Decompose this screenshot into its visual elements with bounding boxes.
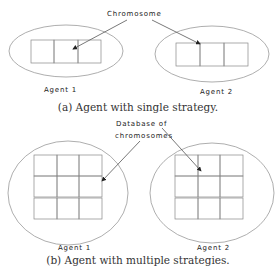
agent-1-ellipse xyxy=(9,25,123,77)
agent-2-label: Agent 2 xyxy=(200,88,233,96)
agent-1-ellipse-b xyxy=(8,141,128,245)
figure: Chromosome Agent 1 Agent 2 (a) Agent wit… xyxy=(0,0,276,268)
agent-2-chromosome xyxy=(176,43,248,66)
database-label-line1: Database of xyxy=(116,120,167,128)
agent-2-ellipse-b xyxy=(150,143,274,243)
agent-2-ellipse xyxy=(155,26,269,82)
agent-2-chromosome-grid xyxy=(175,155,243,219)
arrow-to-agent-2-grid xyxy=(162,128,201,171)
agent-1-label-b: Agent 1 xyxy=(58,244,91,252)
caption-a: (a) Agent with single strategy. xyxy=(58,101,218,113)
arrow-to-agent-1-grid xyxy=(102,141,140,181)
subfigure-b: Database of chromosomes xyxy=(8,120,274,266)
agent-1-chromosome xyxy=(31,40,101,63)
agent-1-chromosome-grid xyxy=(34,155,102,219)
agent-2-label-b: Agent 2 xyxy=(197,244,230,252)
diagram-canvas: Chromosome Agent 1 Agent 2 (a) Agent wit… xyxy=(0,0,276,268)
subfigure-a: Chromosome Agent 1 Agent 2 (a) Agent wit… xyxy=(9,10,269,113)
arrow-to-agent-1 xyxy=(73,20,127,49)
database-label-line2: chromosomes xyxy=(115,132,173,140)
arrow-to-agent-2 xyxy=(152,20,200,44)
chromosome-label: Chromosome xyxy=(107,10,162,18)
agent-1-label: Agent 1 xyxy=(44,86,77,94)
caption-b: (b) Agent with multiple strategies. xyxy=(46,254,229,266)
